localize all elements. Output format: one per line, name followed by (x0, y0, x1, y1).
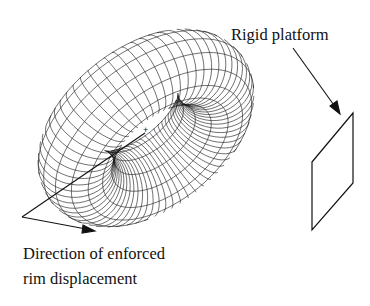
center-marker: + (143, 125, 148, 135)
direction-label-line2: rim displacement (23, 269, 137, 289)
direction-label-line1: Direction of enforced (23, 244, 165, 264)
rigid-platform (312, 113, 353, 230)
platform-arrow (293, 48, 340, 114)
platform-label: Rigid platform (231, 25, 329, 45)
